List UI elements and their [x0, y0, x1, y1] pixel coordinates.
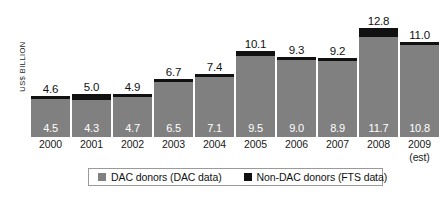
legend-item-non-dac-donors: Non-DAC donors (FTS data): [244, 171, 388, 183]
bar-stack-2006: 0.39.0: [277, 57, 316, 137]
legend-item-dac-donors: DAC donors (DAC data): [98, 171, 222, 183]
bar-value-dac-2007: 8.9: [318, 122, 357, 135]
x-axis-tick-labels: 2000200120022003200420052006200720082009…: [31, 138, 441, 166]
bar-segment-dac-2009: 10.8: [400, 45, 439, 137]
bar-value-dac-2006: 9.0: [277, 122, 316, 135]
x-tick-2002: 2002: [113, 138, 152, 151]
bar-total-label-2007: 9.2: [318, 45, 357, 57]
bar-stack-2005: 0.69.5: [236, 51, 275, 137]
bar-stack-2001: 0.74.3: [72, 94, 111, 137]
bar-segment-dac-2003: 6.5: [154, 82, 193, 137]
bar-segment-dac-2005: 9.5: [236, 56, 275, 137]
bar-segment-dac-2000: 4.5: [31, 99, 70, 137]
bar-total-label-2002: 4.9: [113, 81, 152, 93]
bar-segment-dac-2001: 4.3: [72, 100, 111, 137]
x-tick-2007: 2007: [318, 138, 357, 151]
x-tick-2009: 2009(est): [400, 138, 439, 163]
bar-stack-2003: 0.26.5: [154, 79, 193, 137]
x-tick-2006: 2006: [277, 138, 316, 151]
legend-label-dac-donors: DAC donors (DAC data): [111, 171, 222, 183]
x-tick-2004: 2004: [195, 138, 234, 151]
bar-total-label-2003: 6.7: [154, 66, 193, 78]
chart-legend: DAC donors (DAC data) Non-DAC donors (FT…: [88, 168, 383, 186]
black-square-icon: [244, 173, 252, 181]
bar-segment-dac-2002: 4.7: [113, 97, 152, 137]
bar-value-dac-2008: 11.7: [359, 122, 398, 135]
bar-total-label-2008: 12.8: [359, 15, 398, 27]
bar-value-dac-2009: 10.8: [400, 122, 439, 135]
bar-stack-2007: 0.38.9: [318, 58, 357, 137]
bar-total-label-2000: 4.6: [31, 83, 70, 95]
bar-stack-2002: 0.24.7: [113, 94, 152, 137]
legend-label-non-dac-donors: Non-DAC donors (FTS data): [257, 171, 388, 183]
x-tick-2000: 2000: [31, 138, 70, 151]
plot-area: 4.60.14.55.00.74.34.90.24.76.70.26.57.40…: [31, 6, 441, 137]
bar-stack-2004: 0.37.1: [195, 74, 234, 137]
bar-segment-dac-2008: 11.7: [359, 37, 398, 137]
bar-value-dac-2003: 6.5: [154, 122, 193, 135]
bar-segment-non-dac-2008: 1.1: [359, 28, 398, 37]
bar-segment-dac-2006: 9.0: [277, 60, 316, 137]
bar-value-dac-2002: 4.7: [113, 122, 152, 135]
bar-total-label-2004: 7.4: [195, 61, 234, 73]
x-tick-2005: 2005: [236, 138, 275, 151]
stacked-bar-chart: US$ BILLION 4.60.14.55.00.74.34.90.24.76…: [0, 0, 445, 199]
bar-total-label-2006: 9.3: [277, 44, 316, 56]
x-tick-2008: 2008: [359, 138, 398, 151]
bar-value-dac-2001: 4.3: [72, 122, 111, 135]
x-tick-2001: 2001: [72, 138, 111, 151]
bar-total-label-2001: 5.0: [72, 81, 111, 93]
y-axis-title: US$ BILLION: [18, 29, 27, 105]
bar-total-label-2009: 11.0: [400, 29, 439, 41]
x-tick-2003: 2003: [154, 138, 193, 151]
bar-segment-dac-2007: 8.9: [318, 61, 357, 137]
bar-value-dac-2000: 4.5: [31, 122, 70, 135]
x-tick-sublabel-2009: (est): [400, 151, 439, 163]
bar-value-dac-2004: 7.1: [195, 122, 234, 135]
bar-total-label-2005: 10.1: [236, 38, 275, 50]
gray-square-icon: [98, 173, 106, 181]
bar-stack-2000: 0.14.5: [31, 96, 70, 137]
bar-value-dac-2005: 9.5: [236, 122, 275, 135]
bar-stack-2008: 1.111.7: [359, 28, 398, 137]
bar-segment-dac-2004: 7.1: [195, 77, 234, 137]
bar-stack-2009: 0.210.8: [400, 42, 439, 137]
